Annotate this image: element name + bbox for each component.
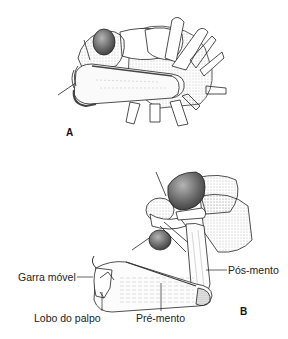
panel-label-b: B <box>240 306 247 317</box>
panel-b-drawing <box>92 172 252 312</box>
panel-label-a: A <box>66 127 73 138</box>
figure-canvas: A <box>0 0 288 339</box>
panel-a-drawing <box>58 17 226 126</box>
label-lobo-do-palpo: Lobo do palpo <box>34 312 101 324</box>
label-garra-movel: Garra móvel <box>18 271 76 283</box>
label-pos-mento: Pós-mento <box>228 264 279 276</box>
label-pre-mento: Pré-mento <box>136 312 185 324</box>
